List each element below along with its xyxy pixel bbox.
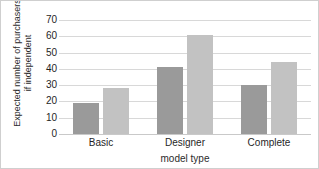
y-tick-label-30: 30: [35, 80, 57, 90]
bar-complete-series-2: [271, 62, 297, 134]
x-axis-tick-labels: BasicDesignerComplete: [59, 137, 311, 151]
y-tick-label-40: 40: [35, 64, 57, 74]
y-tick-label-60: 60: [35, 31, 57, 41]
y-axis-tick-labels: 010203040506070: [31, 20, 57, 134]
bar-basic-series-2: [103, 88, 129, 134]
y-tick-label-50: 50: [35, 48, 57, 58]
gridline-50: [59, 53, 311, 54]
bar-designer-series-1: [157, 67, 183, 134]
plot-area: [59, 20, 311, 134]
bar-chart-figure: Expected number of purchasers if indepen…: [0, 0, 319, 169]
y-tick-label-70: 70: [35, 15, 57, 25]
gridline-0: [59, 134, 311, 135]
bar-complete-series-1: [241, 85, 267, 134]
x-tick-label-complete: Complete: [227, 137, 311, 149]
y-axis-title-line-1: Expected number of purchasers: [12, 0, 23, 138]
y-tick-label-20: 20: [35, 96, 57, 106]
gridline-60: [59, 36, 311, 37]
y-tick-label-0: 0: [35, 129, 57, 139]
gridline-70: [59, 20, 311, 21]
x-axis-title: model type: [59, 153, 311, 165]
bar-basic-series-1: [73, 103, 99, 134]
x-tick-label-designer: Designer: [143, 137, 227, 149]
x-tick-label-basic: Basic: [59, 137, 143, 149]
y-tick-label-10: 10: [35, 113, 57, 123]
bar-designer-series-2: [187, 35, 213, 134]
